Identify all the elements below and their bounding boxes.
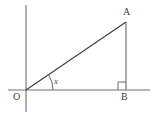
right-angle-marker-icon <box>118 82 126 90</box>
angle-arc-x <box>49 75 53 90</box>
figure-canvas <box>0 0 156 117</box>
angle-label-x: x <box>54 77 58 86</box>
hypotenuse-OA <box>26 22 126 90</box>
vertex-label-apex: A <box>123 7 130 17</box>
vertex-label-foot: B <box>121 92 128 102</box>
geometry-figure: O A B x <box>0 0 156 117</box>
vertex-label-origin: O <box>13 92 20 102</box>
